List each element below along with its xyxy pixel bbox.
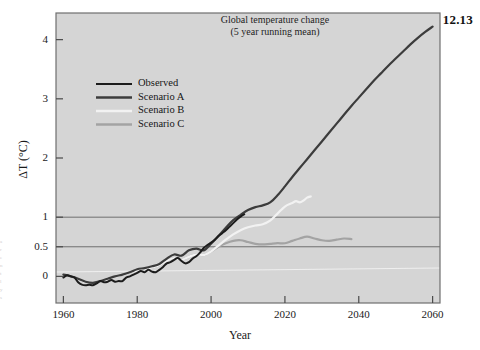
y-tick-label-4: 4 [22, 33, 48, 45]
y-tick-label-3: 3 [22, 92, 48, 104]
y-tick-label-0.5: 0.5 [22, 240, 48, 252]
page-edge-artifact: arentlys [0, 238, 9, 302]
legend-label-scenario-a: Scenario A [138, 91, 184, 102]
legend-label-observed: Observed [138, 77, 178, 88]
chart-canvas [0, 0, 480, 350]
plot-background [56, 13, 440, 303]
x-tick-label-1980: 1980 [117, 308, 157, 320]
x-tick-label-2000: 2000 [191, 308, 231, 320]
chart-title-block: Global temperature change (5 year runnin… [175, 14, 375, 38]
y-tick-label-2: 2 [22, 151, 48, 163]
chart-title-line1: Global temperature change [175, 14, 375, 26]
x-axis-label: Year [200, 328, 280, 343]
y-tick-label-0: 0 [22, 269, 48, 281]
legend-label-scenario-b: Scenario B [138, 104, 184, 115]
figure-12-13: 12.13 Global temperature change (5 year … [0, 0, 480, 350]
x-tick-label-1960: 1960 [43, 308, 83, 320]
x-tick-label-2060: 2060 [413, 308, 453, 320]
legend-label-scenario-c: Scenario C [138, 118, 184, 129]
chart-title-line2: (5 year running mean) [175, 26, 375, 38]
y-tick-label-1: 1 [22, 210, 48, 222]
x-tick-label-2040: 2040 [339, 308, 379, 320]
x-tick-label-2020: 2020 [265, 308, 305, 320]
